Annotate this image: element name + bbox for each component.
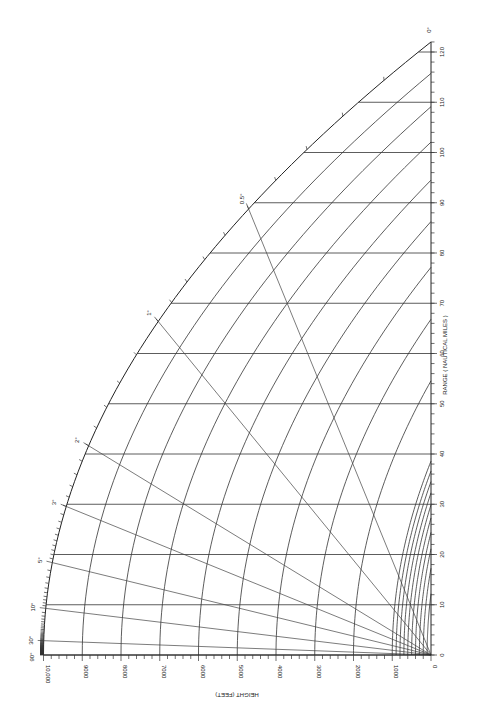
elevation-ray-extension (46, 561, 52, 562)
height-tick-label: 9000 (83, 665, 89, 679)
grid-lines (44, 52, 432, 655)
height-tick-label: 4000 (277, 665, 283, 679)
range-axis-title: RANGE ( NAUTICAL MILES ) (442, 315, 448, 394)
elevation-ray-extension (40, 608, 46, 609)
arc-tick (66, 496, 69, 497)
height-tick-label: 5000 (238, 665, 244, 679)
elevation-angle-label: 0.5° (239, 193, 245, 204)
elevation-angle-label: 5° (37, 557, 43, 563)
arc-tick (185, 279, 187, 282)
arc-tick (45, 583, 48, 584)
elevation-angle-label: 90° (29, 652, 35, 662)
elevation-angle-label: 10° (30, 602, 36, 612)
arc-tick (51, 550, 54, 551)
arc-tick (60, 514, 63, 515)
range-tick-label: 0 (439, 653, 445, 657)
height-curve-9000 (82, 73, 431, 655)
arc-tick (50, 558, 53, 559)
height-tick-label: 6000 (200, 665, 206, 679)
height-curves (44, 42, 432, 655)
height-curve-700 (404, 493, 431, 655)
arc-tick (44, 596, 47, 597)
arc-tick (57, 528, 60, 529)
height-curve-7000 (160, 142, 431, 655)
arc-tick (47, 570, 50, 571)
arc-tick (54, 540, 57, 541)
height-tick-label: 0 (432, 665, 438, 669)
range-tick-label: 110 (439, 97, 445, 107)
height-tick-label: 10,000 (45, 665, 51, 684)
range-tick-label: 50 (439, 400, 445, 407)
elevation-ray (249, 209, 431, 655)
arc-tick (170, 300, 172, 303)
height-tick-label: 2000 (355, 665, 361, 679)
arc-tick (156, 319, 158, 322)
arc-tick (134, 352, 136, 354)
range-tick-label: 90 (439, 199, 445, 206)
arc-tick (44, 592, 47, 593)
arc-tick (117, 381, 120, 383)
height-tick-label: 3000 (316, 665, 322, 679)
height-tick-label: 8000 (122, 665, 128, 679)
arc-tick (46, 577, 49, 578)
arc-tick (275, 177, 276, 180)
arc-tick (79, 460, 82, 462)
height-tick-label: 1000 (393, 665, 399, 679)
range-height-angle-chart: 0102030405060708090100110120010002000300… (0, 0, 487, 728)
height-axis-title: HEIGHT (FEET) (215, 692, 259, 698)
elevation-angle-label: 2° (74, 437, 80, 443)
range-tick-label: 100 (439, 147, 445, 158)
range-tick-label: 30 (439, 500, 445, 507)
elevation-angle-label: 3° (51, 499, 57, 505)
elevation-ray (89, 446, 431, 655)
axes (40, 42, 437, 661)
range-tick-label: 120 (439, 46, 445, 57)
axis-labels: 0102030405060708090100110120010002000300… (28, 26, 445, 684)
arc-tick (203, 257, 205, 260)
height-curve-300 (419, 549, 431, 655)
arc-tick (342, 113, 343, 116)
arc-tick (306, 146, 307, 149)
arc-tick (94, 426, 97, 428)
arc-tick (55, 534, 58, 535)
arc-tick (74, 473, 77, 475)
height-tick-label: 7000 (161, 665, 167, 679)
range-tick-label: 10 (439, 601, 445, 608)
range-tick-label: 40 (439, 450, 445, 457)
arc-tick (70, 485, 73, 486)
elevation-angle-label: 0° (426, 26, 432, 32)
arc-tick (45, 588, 48, 589)
elevation-ray (52, 563, 431, 655)
arc-tick (52, 545, 55, 546)
arc-tick (63, 505, 66, 506)
range-tick-label: 80 (439, 249, 445, 256)
arc-tick (50, 554, 53, 555)
arc-tick (58, 521, 61, 522)
height-curve-100 (427, 594, 431, 655)
range-tick-label: 20 (439, 551, 445, 558)
arc-tick (104, 405, 107, 407)
range-tick-label: 70 (439, 299, 445, 306)
elevation-angle-label: 30° (28, 635, 34, 645)
elevation-angle-label: 1° (146, 309, 152, 315)
arc-tick (247, 206, 248, 209)
arc-tick (224, 232, 226, 235)
arc-tick (86, 444, 89, 446)
